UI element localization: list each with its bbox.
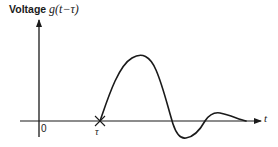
origin-label: 0 <box>41 124 47 134</box>
tau-label: τ <box>95 127 99 137</box>
y-axis-label: Voltage g(t−τ) <box>9 3 79 15</box>
y-axis-label-math: g(t−τ) <box>49 2 79 16</box>
waveform-curve <box>100 55 246 138</box>
waveform-figure: Voltage g(t−τ) 0 τ t <box>0 0 278 147</box>
y-axis-label-text: Voltage <box>9 3 49 15</box>
x-axis-label: t <box>264 113 267 124</box>
